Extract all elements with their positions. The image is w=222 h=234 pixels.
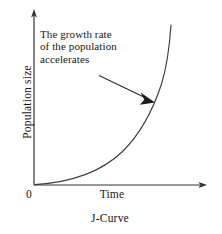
origin-label: 0 (26, 188, 32, 200)
annotation-arrow-shaft (99, 76, 147, 99)
annotation-line-3: accelerates (40, 53, 136, 65)
annotation-text: The growth rate of the population accele… (40, 28, 136, 65)
annotation-line-1: The growth rate (40, 28, 136, 40)
figure-caption: J-Curve (60, 212, 160, 224)
annotation-line-2: of the population (40, 40, 136, 52)
annotation-arrow-head (140, 93, 155, 105)
j-curve-figure: The growth rate of the population accele… (0, 0, 222, 234)
x-axis-label: Time (84, 188, 140, 200)
y-axis-label: Population size (21, 47, 33, 157)
